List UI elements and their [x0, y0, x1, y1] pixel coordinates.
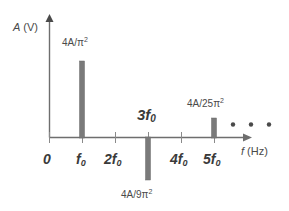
y-axis-label-symbol: A: [13, 21, 20, 33]
tick-label-5f0-subscript: 0: [215, 158, 220, 168]
tick-label-f0-subscript: 0: [81, 158, 86, 168]
x-axis-arrow-icon: [243, 134, 252, 142]
tick-label-0: 0: [43, 152, 51, 166]
amplitude-label-5f0-exponent: 2: [220, 97, 224, 104]
amplitude-label-5f0-text: 4A/25π: [187, 98, 220, 109]
spectral-bar-3f0: [146, 137, 151, 180]
tick-label-5f0: 5f0: [203, 152, 220, 168]
harmonic-callout-3f0-subscript: 0: [150, 113, 156, 124]
amplitude-label-f0-exponent: 2: [84, 36, 88, 43]
tick-label-5f0-text: 5f: [203, 151, 215, 167]
x-axis-label-unit: (Hz): [247, 145, 268, 157]
amplitude-label-3f0: 4A/9π2: [121, 188, 152, 200]
tick-label-0-text: 0: [43, 151, 51, 167]
amplitude-label-3f0-exponent: 2: [148, 188, 152, 195]
y-axis-arrow-icon: [46, 14, 54, 22]
y-axis-label: A(V): [13, 22, 38, 33]
tick-label-2f0-text: 2f: [104, 151, 116, 167]
x-axis-label: f(Hz): [241, 146, 268, 157]
amplitude-label-f0: 4A/π2: [62, 36, 88, 48]
tick-label-4f0: 4f0: [170, 152, 187, 168]
continuation-dot-1: [231, 122, 235, 126]
amplitude-label-5f0: 4A/25π2: [187, 97, 224, 109]
amplitude-label-3f0-text: 4A/9π: [121, 189, 148, 200]
harmonic-callout-3f0-text: 3f: [137, 106, 150, 123]
amplitude-label-f0-text: 4A/π: [62, 37, 84, 48]
tick-label-f0: f0: [76, 152, 86, 168]
x-axis-label-symbol: f: [241, 145, 244, 157]
tick-label-2f0: 2f0: [104, 152, 121, 168]
continuation-dot-3: [267, 122, 271, 126]
spectral-bar-f0: [80, 61, 85, 138]
harmonic-callout-3f0: 3f0: [137, 107, 156, 124]
continuation-dot-2: [249, 122, 253, 126]
tick-label-4f0-text: 4f: [170, 151, 182, 167]
y-axis-label-unit: (V): [23, 21, 38, 33]
tick-label-2f0-subscript: 0: [116, 158, 121, 168]
spectral-bar-5f0: [212, 118, 217, 138]
fourier-spectrum-figure: A(V) f(Hz) 4A/π2 3f0 4A/25π2 4A/9π2 0 f0…: [0, 0, 289, 211]
tick-label-4f0-subscript: 0: [182, 158, 187, 168]
